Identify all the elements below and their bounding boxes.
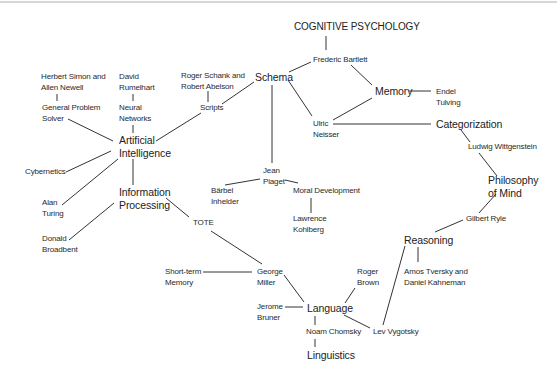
- node-label: Frederic Bartlett: [313, 55, 367, 66]
- node-wittgenstein: Ludwig Wittgenstein: [468, 142, 537, 153]
- node-label-line2: Bruner: [257, 313, 283, 324]
- node-label-line2: Neisser: [313, 130, 339, 141]
- node-philosophy-of-mind: Philosophy of Mind: [488, 174, 538, 199]
- node-moral-development: Moral Development: [293, 186, 360, 197]
- node-categorization: Categorization: [436, 118, 502, 131]
- node-label: Ludwig Wittgenstein: [468, 142, 537, 153]
- node-lev-vygotsky: Lev Vygotsky: [373, 327, 418, 338]
- node-label: Reasoning: [404, 234, 453, 247]
- node-neural-networks: Neural Networks: [119, 103, 151, 124]
- node-endel-tulving: Endel Tulving: [436, 87, 460, 108]
- node-label-line1: David: [119, 72, 155, 83]
- node-label-line1: Ulric: [313, 119, 339, 130]
- node-label-line2: Kohlberg: [293, 225, 327, 236]
- node-label: Schema: [255, 71, 293, 84]
- node-alan-turing: Alan Turing: [42, 198, 63, 219]
- node-rumelhart: David Rumelhart: [119, 72, 155, 93]
- node-label-line1: Endel: [436, 87, 460, 98]
- node-barbel-inhelder: Bärbel Inhelder: [211, 186, 239, 207]
- node-label: Noam Chomsky: [306, 327, 361, 338]
- node-label-line2: Rumelhart: [119, 83, 155, 94]
- node-label-line2: of Mind: [488, 187, 538, 200]
- node-label-line1: Short-term: [165, 267, 201, 278]
- node-label: Categorization: [436, 118, 502, 131]
- node-jerome-bruner: Jerome Bruner: [257, 302, 283, 323]
- node-label: Memory: [375, 85, 412, 98]
- node-label-line1: Amos Tversky and: [404, 267, 468, 278]
- node-label-line1: Alan: [42, 198, 63, 209]
- node-frederic-bartlett: Frederic Bartlett: [313, 55, 367, 66]
- node-ulric-neisser: Ulric Neisser: [313, 119, 339, 140]
- node-label-line2: Piaget: [263, 177, 285, 188]
- node-jean-piaget: Jean Piaget: [263, 166, 285, 187]
- node-label-line2: Broadbent: [42, 245, 78, 256]
- node-schank-abelson: Roger Schank and Robert Abelson: [181, 71, 245, 92]
- node-label: Linguistics: [307, 349, 355, 362]
- node-label: Lev Vygotsky: [373, 327, 418, 338]
- node-label-line2: Processing: [119, 199, 170, 212]
- node-tversky-kahneman: Amos Tversky and Daniel Kahneman: [404, 267, 468, 288]
- node-label: Gilbert Ryle: [466, 214, 506, 225]
- node-scripts: Scripts: [200, 103, 223, 114]
- node-label-line2: Robert Abelson: [181, 82, 245, 93]
- node-label-line1: Bärbel: [211, 186, 239, 197]
- node-general-problem-solver: General Problem Solver: [42, 103, 100, 124]
- node-cybernetics: Cybernetics: [25, 167, 66, 178]
- title-text: COGNITIVE PSYCHOLOGY: [294, 22, 420, 33]
- node-label-line1: Neural: [119, 103, 151, 114]
- node-schema: Schema: [255, 71, 293, 84]
- node-label-line1: Lawrence: [293, 214, 327, 225]
- node-tote: TOTE: [193, 218, 214, 229]
- node-linguistics: Linguistics: [307, 349, 355, 362]
- node-label-line1: Donald: [42, 234, 78, 245]
- node-short-term-memory: Short-term Memory: [165, 267, 201, 288]
- node-label-line2: Turing: [42, 209, 63, 220]
- node-label-line2: Tulving: [436, 98, 460, 109]
- node-label-line1: General Problem: [42, 103, 100, 114]
- node-label-line1: George: [257, 267, 283, 278]
- node-donald-broadbent: Donald Broadbent: [42, 234, 78, 255]
- node-label-line2: Intelligence: [119, 147, 171, 160]
- node-label-line2: Memory: [165, 278, 201, 289]
- node-label: Moral Development: [293, 186, 360, 197]
- node-label: Language: [307, 302, 353, 315]
- node-label-line1: Philosophy: [488, 174, 538, 187]
- node-label-line2: Networks: [119, 114, 151, 125]
- node-label-line2: Daniel Kahneman: [404, 278, 468, 289]
- node-label-line1: Roger Schank and: [181, 71, 245, 82]
- node-information-processing: Information Processing: [119, 186, 170, 211]
- title-cognitive-psychology: COGNITIVE PSYCHOLOGY: [294, 22, 420, 33]
- node-label-line2: Brown: [357, 278, 379, 289]
- node-gilbert-ryle: Gilbert Ryle: [466, 214, 506, 225]
- node-label-line2: Solver: [42, 114, 100, 125]
- node-label-line1: Jerome: [257, 302, 283, 313]
- node-label-line1: Roger: [357, 267, 379, 278]
- node-label: Cybernetics: [25, 167, 66, 178]
- node-label-line2: Allen Newell: [41, 83, 106, 94]
- node-artificial-intelligence: Artificial Intelligence: [119, 134, 171, 159]
- node-label-line1: Artificial: [119, 134, 171, 147]
- node-label-line1: Herbert Simon and: [41, 72, 106, 83]
- node-label-line1: Information: [119, 186, 170, 199]
- node-george-miller: George Miller: [257, 267, 283, 288]
- node-roger-brown: Roger Brown: [357, 267, 379, 288]
- node-label-line1: Jean: [263, 166, 285, 177]
- node-label: Scripts: [200, 103, 223, 114]
- node-lawrence-kohlberg: Lawrence Kohlberg: [293, 214, 327, 235]
- node-noam-chomsky: Noam Chomsky: [306, 327, 361, 338]
- node-label: TOTE: [193, 218, 214, 229]
- node-memory: Memory: [375, 85, 412, 98]
- node-reasoning: Reasoning: [404, 234, 453, 247]
- node-label-line2: Inhelder: [211, 197, 239, 208]
- node-label-line2: Miller: [257, 278, 283, 289]
- node-simon-newell: Herbert Simon and Allen Newell: [41, 72, 106, 93]
- node-language: Language: [307, 302, 353, 315]
